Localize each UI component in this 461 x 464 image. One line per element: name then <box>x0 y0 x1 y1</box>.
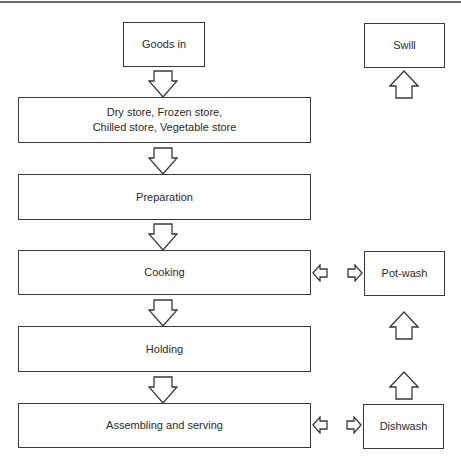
dishwash-label: Dishwash <box>380 419 428 434</box>
arrow-down-icon <box>148 147 178 175</box>
holding-box: Holding <box>18 326 311 372</box>
swill-box: Swill <box>364 23 445 68</box>
arrow-right-icon <box>346 416 362 434</box>
arrow-down-icon <box>148 70 178 98</box>
assembling-label: Assembling and serving <box>106 418 223 433</box>
stores-box: Dry store, Frozen store, Chilled store, … <box>18 97 311 143</box>
arrow-left-icon <box>312 264 328 282</box>
arrow-right-icon <box>347 264 363 282</box>
arrow-up-icon <box>389 70 419 99</box>
arrow-down-icon <box>148 299 178 327</box>
stores-label-line1: Dry store, Frozen store, <box>107 105 223 120</box>
pot-wash-label: Pot-wash <box>382 266 428 281</box>
swill-label: Swill <box>393 38 416 53</box>
arrow-up-icon <box>389 311 419 340</box>
preparation-box: Preparation <box>18 174 311 220</box>
holding-label: Holding <box>146 342 183 357</box>
top-rule <box>0 1 461 3</box>
preparation-label: Preparation <box>136 190 193 205</box>
arrow-down-icon <box>148 376 178 404</box>
stores-label-line2: Chilled store, Vegetable store <box>93 120 237 135</box>
dishwash-box: Dishwash <box>363 404 444 449</box>
goods-in-box: Goods in <box>123 22 205 67</box>
cooking-box: Cooking <box>18 250 311 295</box>
arrow-up-icon <box>389 371 419 400</box>
assembling-box: Assembling and serving <box>18 403 311 448</box>
pot-wash-box: Pot-wash <box>364 251 445 296</box>
goods-in-label: Goods in <box>142 37 186 52</box>
arrow-left-icon <box>312 416 328 434</box>
cooking-label: Cooking <box>144 265 184 280</box>
arrow-down-icon <box>148 223 178 251</box>
